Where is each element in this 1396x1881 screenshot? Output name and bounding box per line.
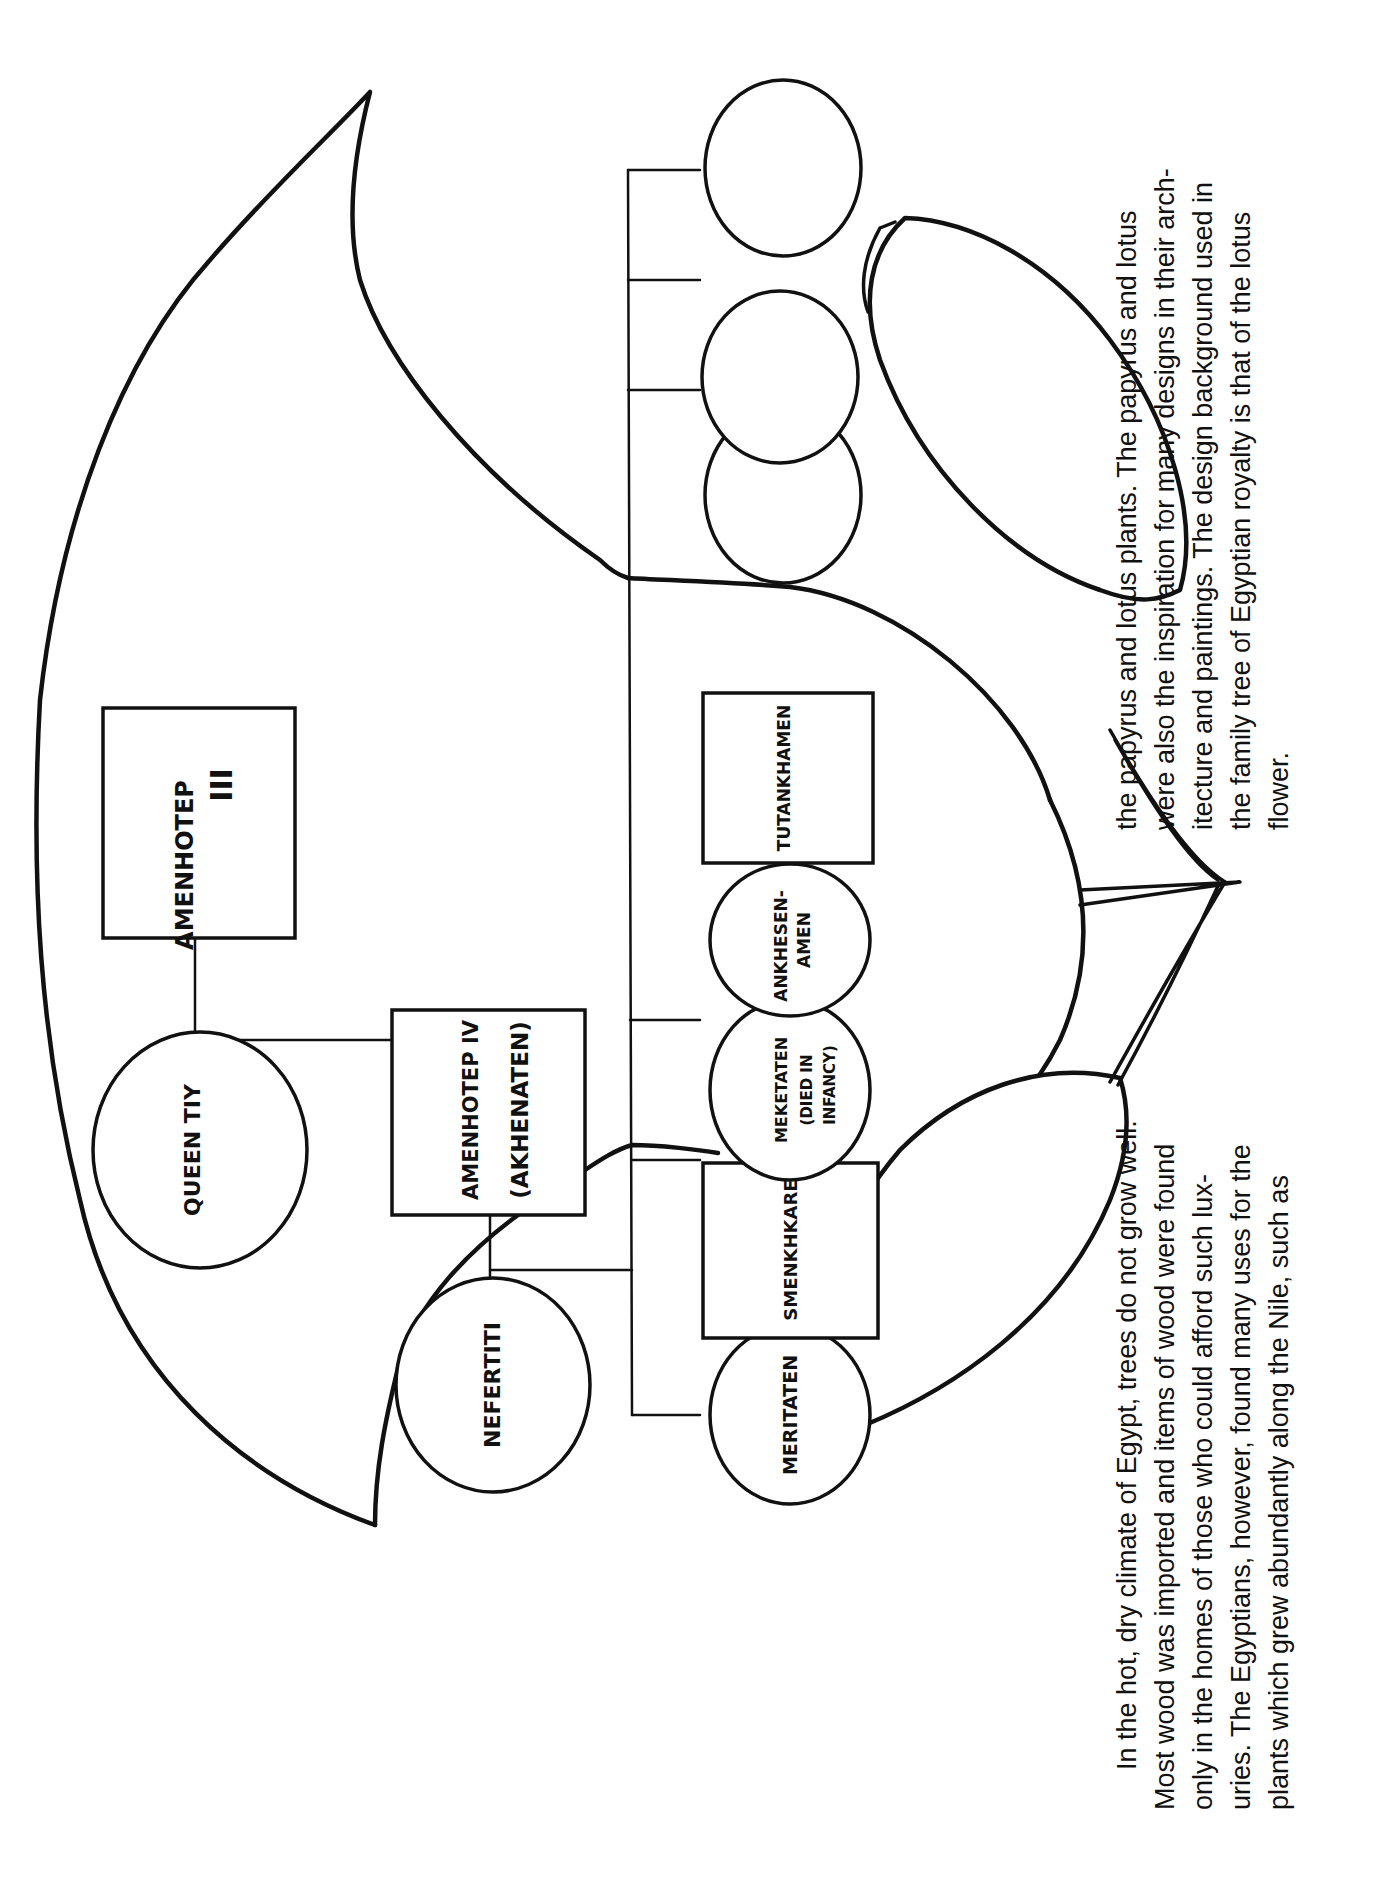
caption-right-line-2: were also the inspiration for many desig… [1150, 168, 1180, 831]
caption-right-line-4: the family tree of Egyptian royalty is t… [1226, 212, 1256, 830]
caption-left-column: In the hot, dry climate of Egypt, trees … [1112, 1120, 1294, 1810]
node-blank-child-5[interactable] [702, 291, 858, 463]
caption-right-line-5: flower. [1264, 752, 1294, 830]
label-amenhotep-iii: AMENHOTEP [171, 780, 199, 950]
family-tree-diagram: AMENHOTEP III QUEEN TIY AMENHOTEP IV (AK… [0, 0, 1396, 1881]
label-amenhotep-iii-numeral: III [204, 768, 239, 802]
label-meritaten: MERITATEN [779, 1355, 801, 1475]
caption-right-line-3: itecture and paintings. The design backg… [1188, 182, 1218, 830]
node-nefertiti[interactable]: NEFERTITI [396, 1278, 590, 1492]
node-queen-tiy[interactable]: QUEEN TIY [93, 1032, 307, 1268]
caption-right-column: the papyrus and lotus plants. The papyru… [1112, 168, 1294, 831]
caption-left-line-2: Most wood was imported and items of wood… [1150, 1144, 1180, 1810]
label-ankhesenamen-2: AMEN [794, 912, 814, 968]
label-meketaten-1: MEKETATEN [772, 1037, 791, 1143]
node-amenhotep-iv[interactable]: AMENHOTEP IV (AKHENATEN) [392, 1010, 585, 1215]
lotus-inner-curve [585, 1145, 718, 1170]
lotus-stem-left [1110, 882, 1225, 1085]
node-amenhotep-iii[interactable]: AMENHOTEP III [103, 708, 295, 950]
node-blank-child-6[interactable] [705, 80, 861, 256]
node-meketaten[interactable]: MEKETATEN (DIED IN INFANCY) [710, 1000, 870, 1180]
label-smenkhkare: SMENKHKARE [780, 1179, 801, 1320]
label-meketaten-2: (DIED IN [798, 1055, 816, 1126]
node-meritaten[interactable]: MERITATEN [710, 1326, 870, 1504]
node-smenkhkare[interactable]: SMENKHKARE [703, 1163, 878, 1338]
label-nefertiti: NEFERTITI [480, 1322, 505, 1448]
caption-left-line-1: In the hot, dry climate of Egypt, trees … [1112, 1120, 1142, 1770]
caption-left-line-3: only in the homes of those who could aff… [1188, 1174, 1218, 1810]
caption-left-line-4: uries. The Egyptians, however, found man… [1226, 1144, 1256, 1810]
label-queen-tiy: QUEEN TIY [180, 1083, 205, 1216]
caption-left-line-5: plants which grew abundantly along the N… [1264, 1175, 1294, 1810]
label-amenhotep-iv: AMENHOTEP IV [459, 1019, 483, 1200]
children-spine [628, 170, 632, 1415]
label-ankhesenamen-1: ANKHESEN- [771, 890, 791, 1002]
label-akhenaten: (AKHENATEN) [507, 1021, 533, 1199]
node-tutankhamen[interactable]: TUTANKHAMEN [703, 693, 873, 863]
label-meketaten-3: INFANCY) [821, 1045, 839, 1125]
label-tutankhamen: TUTANKHAMEN [774, 705, 794, 851]
node-ankhesenamen[interactable]: ANKHESEN- AMEN [710, 864, 870, 1016]
caption-right-line-1: the papyrus and lotus plants. The papyru… [1112, 211, 1142, 830]
